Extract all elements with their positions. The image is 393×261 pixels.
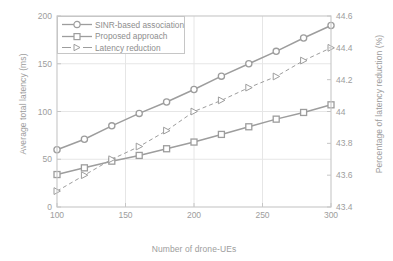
y-tick-right: 44.2 [336,75,366,85]
x-tick: 200 [174,210,214,220]
legend-label: SINR-based association [93,20,184,30]
legend-symbol-square-line [61,31,93,42]
chart-figure: Average total latency (ms) Percentage of… [0,0,393,261]
y-tick-right: 44.4 [336,43,366,53]
y-tick-right: 43.8 [336,138,366,148]
y-tick-right: 44 [336,107,366,117]
legend-item-sinr-based-association: SINR-based association [61,19,184,31]
y-tick-left: 200 [26,11,52,21]
y-tick-left: 50 [26,154,52,164]
y-tick-left: 150 [26,59,52,69]
legend-symbol-triangle-dashed [61,42,93,53]
legend-item-latency-reduction: Latency reduction [61,42,184,54]
x-axis-label: Number of drone-UEs [57,244,331,254]
x-tick: 150 [106,210,146,220]
y-axis-label-right: Percentage of latency reduction (%) [374,19,384,189]
legend-label: Proposed approach [93,31,167,41]
y-tick-left: 100 [26,107,52,117]
chart-legend: SINR-based association Proposed approach… [57,16,185,54]
x-tick: 100 [37,210,77,220]
y-tick-right: 44.6 [336,11,366,21]
legend-symbol-circle-line [61,19,93,30]
legend-label: Latency reduction [93,43,161,53]
x-tick: 250 [243,210,283,220]
y-tick-right: 43.6 [336,170,366,180]
x-tick: 300 [311,210,351,220]
legend-item-proposed-approach: Proposed approach [61,31,184,43]
